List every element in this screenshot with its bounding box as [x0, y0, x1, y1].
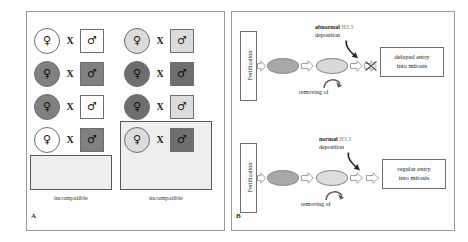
female-icon: ♀ — [43, 35, 51, 46]
male-symbol: ♂ — [170, 95, 194, 119]
blocked-arrow-icon — [364, 60, 378, 72]
male-symbol: ♂ — [170, 29, 194, 53]
cross-row: ♀ X ♂ — [34, 90, 106, 123]
cross-column-right: ♀ X ♂ ♀ X ♂ ♀ X ♂ ♀ — [124, 24, 206, 156]
female-symbol: ♀ — [34, 94, 60, 120]
deposition-callout-abnormal: abnormal H3.3 deposition — [315, 24, 353, 39]
outcome-box-regular: regular entry into mitosis — [382, 159, 446, 189]
deposition-state: normal — [319, 136, 338, 142]
deposition-word: deposition — [315, 32, 340, 38]
cross-operator: X — [60, 68, 80, 79]
fertilization-label: Fertilization — [241, 31, 258, 101]
panel-a-letter: A — [31, 212, 36, 220]
cross-row: ♀ X ♂ — [34, 123, 106, 156]
deposition-callout-normal: normal H3.3 deposition — [319, 136, 351, 151]
outcome-line-2: into mitosis — [399, 174, 430, 183]
zygote-ellipse-2 — [316, 170, 348, 186]
female-icon: ♀ — [133, 35, 141, 46]
male-icon: ♂ — [177, 101, 187, 112]
fertilization-label-wrap-bottom: Fertilization — [240, 143, 257, 213]
arrow-icon — [257, 172, 266, 184]
male-symbol: ♂ — [80, 95, 104, 119]
cross-operator: X — [150, 101, 170, 112]
deposition-gene: H3.3 — [342, 24, 354, 30]
arrow-icon — [301, 60, 314, 72]
male-symbol: ♂ — [80, 128, 104, 152]
cross-operator: X — [150, 35, 170, 46]
female-icon: ♀ — [43, 68, 51, 79]
panel-b-letter: B — [236, 212, 241, 220]
incompatible-label-right: incompatible — [118, 194, 214, 201]
male-icon: ♂ — [177, 68, 187, 79]
incompatible-label-left: incompatible — [30, 194, 112, 201]
removing-label: removing of — [301, 201, 331, 207]
female-symbol: ♀ — [124, 127, 150, 153]
cross-operator: X — [60, 134, 80, 145]
female-icon: ♀ — [133, 134, 141, 145]
male-icon: ♂ — [87, 35, 97, 46]
female-symbol: ♀ — [34, 28, 60, 54]
outcome-box-delayed: delayed entry into mitosis — [380, 47, 444, 77]
deposition-state: abnormal — [315, 24, 340, 30]
female-icon: ♀ — [133, 68, 141, 79]
cross-row: ♀ X ♂ — [34, 57, 106, 90]
deposition-arrow-icon — [344, 39, 364, 67]
male-symbol: ♂ — [80, 29, 104, 53]
cross-column-left: ♀ X ♂ ♀ X ♂ ♀ X ♂ ♀ — [34, 24, 106, 156]
outcome-line-1: delayed entry — [394, 53, 429, 62]
female-symbol: ♀ — [34, 61, 60, 87]
female-icon: ♀ — [43, 101, 51, 112]
removing-label: removing of — [299, 89, 329, 95]
male-icon: ♂ — [87, 68, 97, 79]
arrow-icon — [301, 172, 314, 184]
cross-operator: X — [150, 68, 170, 79]
female-symbol: ♀ — [124, 94, 150, 120]
fertilization-label-wrap-top: Fertilization — [240, 31, 257, 101]
deposition-gene: H3.3 — [339, 136, 351, 142]
male-icon: ♂ — [177, 35, 187, 46]
fertilization-label: Fertilization — [241, 143, 258, 213]
outcome-line-1: regular entry — [397, 165, 430, 174]
female-symbol: ♀ — [124, 28, 150, 54]
male-icon: ♂ — [177, 134, 187, 145]
male-icon: ♂ — [87, 101, 97, 112]
cross-operator: X — [60, 35, 80, 46]
female-icon: ♀ — [43, 134, 51, 145]
zygote-ellipse-1 — [267, 170, 299, 186]
female-symbol: ♀ — [34, 127, 60, 153]
cross-operator: X — [150, 134, 170, 145]
cross-row: ♀ X ♂ — [124, 90, 206, 123]
cross-row: ♀ X ♂ — [124, 57, 206, 90]
male-symbol: ♂ — [80, 62, 104, 86]
female-symbol: ♀ — [124, 61, 150, 87]
female-icon: ♀ — [133, 101, 141, 112]
male-symbol: ♂ — [170, 128, 194, 152]
deposition-word: deposition — [319, 144, 344, 150]
cross-row: ♀ X ♂ — [34, 24, 106, 57]
male-icon: ♂ — [87, 134, 97, 145]
arrow-icon — [257, 60, 266, 72]
male-symbol: ♂ — [170, 62, 194, 86]
cross-operator: X — [60, 101, 80, 112]
zygote-ellipse-1 — [267, 58, 299, 74]
highlight-box-left — [30, 155, 112, 190]
deposition-arrow-icon — [346, 151, 366, 179]
outcome-line-2: into mitosis — [397, 62, 428, 71]
arrow-icon — [366, 172, 379, 184]
cross-row: ♀ X ♂ — [124, 123, 206, 156]
cross-row: ♀ X ♂ — [124, 24, 206, 57]
figure-root: ♀ X ♂ ♀ X ♂ ♀ X ♂ ♀ — [0, 0, 468, 242]
